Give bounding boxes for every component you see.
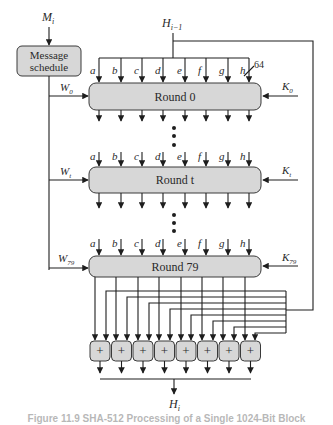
svg-text:h: h <box>240 150 246 162</box>
message-input: Mi <box>41 10 54 45</box>
svg-text:f: f <box>198 150 203 162</box>
svg-text:schedule: schedule <box>30 61 69 73</box>
svg-text:+: + <box>118 343 125 358</box>
adder-7: + <box>219 341 239 361</box>
svg-text:d: d <box>155 150 161 162</box>
svg-text:f: f <box>198 64 203 76</box>
svg-text:e: e <box>177 64 182 76</box>
sha512-block-diagram: Mi Message schedule W0 Wt W79 Hi−1 64 <box>0 0 333 425</box>
svg-text:a: a <box>90 150 96 162</box>
svg-text:a: a <box>90 237 96 249</box>
adder-3: + <box>133 341 153 361</box>
roundt-register-labels: a b c d e f g h <box>90 150 246 162</box>
svg-text:b: b <box>112 237 118 249</box>
svg-text:+: + <box>139 343 146 358</box>
adder-4: + <box>155 341 175 361</box>
svg-text:e: e <box>177 150 182 162</box>
bus-width-label: 64 <box>254 59 264 70</box>
svg-text:a: a <box>90 64 96 76</box>
svg-text:c: c <box>134 64 139 76</box>
svg-text:g: g <box>219 64 225 76</box>
adder-6: + <box>198 341 218 361</box>
ellipsis-dots <box>172 126 176 147</box>
round0-outputs <box>99 110 249 121</box>
figure-caption: Figure 11.9 SHA-512 Processing of a Sing… <box>0 413 333 424</box>
svg-text:Hi−1: Hi−1 <box>161 16 182 32</box>
message-schedule-box: Message schedule <box>17 46 81 76</box>
output-bus <box>100 361 251 394</box>
svg-text:+: + <box>161 343 168 358</box>
w0-label: W0 <box>60 81 73 96</box>
svg-text:f: f <box>198 237 203 249</box>
adder-5: + <box>176 341 196 361</box>
kt-label: Kt <box>281 164 292 179</box>
adder-2: + <box>112 341 132 361</box>
svg-text:d: d <box>155 237 161 249</box>
round0-register-labels: a b c d e f g h <box>90 64 246 76</box>
ellipsis-dots <box>172 213 176 233</box>
svg-text:d: d <box>155 64 161 76</box>
svg-text:+: + <box>247 343 254 358</box>
svg-text:c: c <box>134 150 139 162</box>
svg-text:e: e <box>177 237 182 249</box>
svg-text:+: + <box>96 343 103 358</box>
svg-text:g: g <box>219 150 225 162</box>
adder-row: + + + + + + + + <box>90 341 261 361</box>
round79-register-labels: a b c d e f g h <box>90 237 246 249</box>
k0-label: K0 <box>281 80 293 95</box>
round-t-box: Round t <box>89 167 261 193</box>
svg-text:h: h <box>240 237 246 249</box>
svg-text:Round 79: Round 79 <box>151 260 198 274</box>
svg-text:Round t: Round t <box>156 173 195 187</box>
roundt-inputs <box>99 152 249 166</box>
svg-text:+: + <box>204 343 211 358</box>
svg-text:Mi: Mi <box>41 10 54 26</box>
round-0-box: Round 0 <box>89 83 261 110</box>
w79-label: W79 <box>58 252 75 267</box>
svg-text:c: c <box>134 237 139 249</box>
svg-text:b: b <box>112 64 118 76</box>
svg-text:+: + <box>225 343 232 358</box>
adder-8: + <box>241 341 261 361</box>
svg-text:+: + <box>182 343 189 358</box>
round-79-box: Round 79 <box>89 256 261 277</box>
output-hash-label: Hi <box>168 397 180 413</box>
svg-text:g: g <box>219 237 225 249</box>
svg-text:Round 0: Round 0 <box>154 90 195 104</box>
wt-label: Wt <box>60 165 72 180</box>
svg-text:h: h <box>240 64 246 76</box>
svg-text:Message: Message <box>30 49 69 61</box>
round79-inputs <box>99 239 249 255</box>
adder-1: + <box>90 341 110 361</box>
svg-text:b: b <box>112 150 118 162</box>
k79-label: K79 <box>281 251 297 266</box>
roundt-outputs <box>99 193 249 208</box>
feedback-bus <box>106 291 286 340</box>
